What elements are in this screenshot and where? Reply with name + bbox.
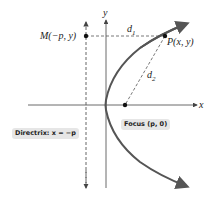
point-p-label: P(x, y) [167,37,194,47]
directrix-tag: Directrix: x = −p [12,128,79,139]
focus-tag: Focus (p, 0) [121,119,170,130]
diagram-graphics [0,0,210,197]
parabola-diagram: y x M(−p, y) P(x, y) d1 d2 Directrix: x … [0,0,210,197]
d1-label: d1 [127,24,136,37]
x-axis-label: x [199,100,203,110]
y-axis-label: y [103,8,107,18]
d2-line [125,36,165,105]
d2-label: d2 [147,70,156,83]
focus-point [123,103,127,107]
point-m-label: M(−p, y) [40,31,76,41]
point-m [84,34,88,38]
